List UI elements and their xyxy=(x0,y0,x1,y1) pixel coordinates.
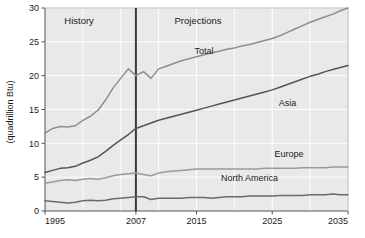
x-axis-ticks: 19952007201520252035 xyxy=(45,211,348,226)
y-axis-ticks: 051015202530 xyxy=(29,3,45,216)
history-label: History xyxy=(64,15,94,26)
x-tick-label: 2035 xyxy=(328,216,348,226)
y-axis-title: (quadrillion Btu) xyxy=(5,80,15,143)
y-tick-label: 20 xyxy=(29,71,39,81)
line-chart: 051015202530 19952007201520252035 (quadr… xyxy=(0,0,365,238)
y-tick-label: 10 xyxy=(29,139,39,149)
series-label-asia: Asia xyxy=(279,98,297,108)
y-tick-label: 15 xyxy=(29,105,39,115)
x-tick-label: 2025 xyxy=(262,216,282,226)
series-label-europe: Europe xyxy=(274,149,303,159)
y-tick-label: 0 xyxy=(34,206,39,216)
chart-container: 051015202530 19952007201520252035 (quadr… xyxy=(0,0,365,238)
series-label-total: Total xyxy=(195,46,214,56)
y-tick-label: 5 xyxy=(34,172,39,182)
x-tick-label: 2015 xyxy=(186,216,206,226)
projections-label: Projections xyxy=(175,15,222,26)
y-tick-label: 25 xyxy=(29,37,39,47)
series-label-north-america: North America xyxy=(221,173,278,183)
x-tick-label: 2007 xyxy=(126,216,146,226)
y-tick-label: 30 xyxy=(29,3,39,13)
x-tick-label: 1995 xyxy=(45,216,65,226)
